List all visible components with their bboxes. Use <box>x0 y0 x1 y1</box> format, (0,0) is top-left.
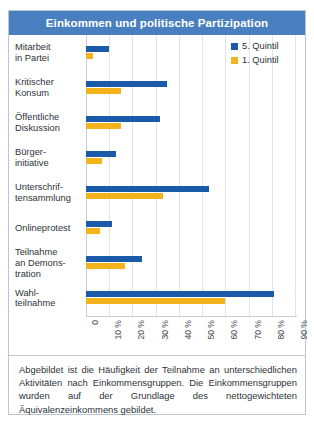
bar-q5 <box>86 186 209 192</box>
x-axis-line <box>86 316 297 317</box>
bar-q5 <box>86 256 142 262</box>
category-label: ÖffentlicheDiskussion <box>15 112 86 133</box>
category-label: KritischerKonsum <box>15 77 86 98</box>
x-tick-labels: 010 %20 %30 %40 %50 %60 %70 %80 %90 % <box>86 318 297 355</box>
bar-q1 <box>86 123 121 129</box>
legend-label: 1. Quintil <box>242 55 279 65</box>
bar-q1 <box>86 298 225 304</box>
category-label: Mitarbeitin Partei <box>15 42 86 63</box>
category-label: Wahl-teilnahme <box>15 288 86 309</box>
bar-group <box>86 70 297 105</box>
bar-group <box>86 176 297 211</box>
legend-label: 5. Quintil <box>242 41 279 51</box>
legend-swatch-icon <box>231 57 238 64</box>
x-tick-label: 30 % <box>160 320 170 340</box>
x-tick-label: 50 % <box>206 320 216 340</box>
x-tick-label: 10 % <box>113 320 123 340</box>
footnote-text: Abgebildet ist die Häufigkeit der Teilna… <box>19 363 297 416</box>
x-tick-label: 60 % <box>229 320 239 340</box>
x-tick-label: 80 % <box>276 320 286 340</box>
category-labels: Mitarbeitin ParteiKritischerKonsumÖffent… <box>15 35 86 316</box>
bar-q1 <box>86 88 121 94</box>
bar-q5 <box>86 81 167 87</box>
page-title: Einkommen und politische Partizipation <box>46 17 268 29</box>
chart-legend: 5. Quintil 1. Quintil <box>231 40 303 68</box>
bar-group <box>86 105 297 140</box>
x-tick-label: 0 <box>90 320 100 325</box>
bar-q1 <box>86 263 125 269</box>
category-label: Bürger-initiative <box>15 147 86 168</box>
bar-q1 <box>86 193 163 199</box>
chart-area: Mitarbeitin ParteiKritischerKonsumÖffent… <box>9 35 305 355</box>
bar-q5 <box>86 46 109 52</box>
category-label: Teilnahmean Demons-tration <box>15 247 86 279</box>
bar-q1 <box>86 158 102 164</box>
category-label: Onlineprotest <box>15 223 86 234</box>
chart-page: Einkommen und politische Partizipation M… <box>0 0 314 423</box>
bar-group <box>86 140 297 175</box>
bar-rows <box>86 35 297 316</box>
legend-item-q1: 1. Quintil <box>231 54 303 66</box>
bar-q5 <box>86 116 160 122</box>
bar-group <box>86 211 297 246</box>
bar-q5 <box>86 151 116 157</box>
x-tick-label: 20 % <box>136 320 146 340</box>
bar-group <box>86 281 297 316</box>
legend-item-q5: 5. Quintil <box>231 40 303 52</box>
legend-swatch-icon <box>231 43 238 50</box>
footnote-divider <box>9 355 305 356</box>
category-label: Unterschrif-tensammlung <box>15 182 86 203</box>
chart-header: Einkommen und politische Partizipation <box>9 11 305 35</box>
plot-region <box>86 35 297 317</box>
x-tick-label: 70 % <box>253 320 263 340</box>
bar-group <box>86 246 297 281</box>
bar-q5 <box>86 291 274 297</box>
x-tick-label: 40 % <box>183 320 193 340</box>
bar-q1 <box>86 228 100 234</box>
chart-card: Einkommen und politische Partizipation M… <box>8 10 306 415</box>
x-tick-label: 90 % <box>299 320 309 340</box>
bar-q5 <box>86 221 112 227</box>
bar-q1 <box>86 53 93 59</box>
